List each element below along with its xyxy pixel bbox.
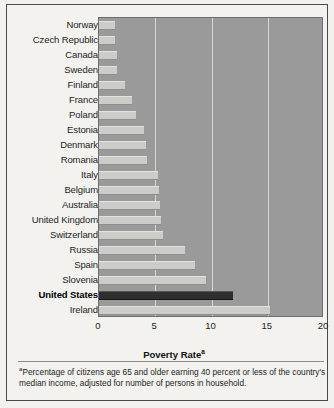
bar	[99, 81, 125, 90]
category-label: Australia	[18, 200, 98, 210]
bar	[99, 66, 117, 75]
bar	[99, 171, 158, 180]
category-label: Poland	[18, 110, 98, 120]
poverty-rate-figure: NorwayCzech RepublicCanadaSwedenFinlandF…	[0, 0, 334, 408]
bar	[99, 291, 233, 300]
category-label: United Kingdom	[18, 215, 98, 225]
category-label: Russia	[18, 245, 98, 255]
gridline-5	[155, 18, 156, 316]
bar	[99, 216, 161, 225]
x-tick-label: 5	[152, 320, 157, 331]
chart-area: NorwayCzech RepublicCanadaSwedenFinlandF…	[18, 17, 330, 329]
category-label: Czech Republic	[18, 35, 98, 45]
x-tick-label: 0	[95, 320, 100, 331]
plot-area	[98, 17, 323, 317]
x-tick-label: 15	[261, 320, 272, 331]
bar	[99, 126, 144, 135]
footnote-divider	[18, 361, 324, 362]
x-axis-title-text: Poverty Rate	[143, 349, 201, 360]
footnote-text: Percentage of citizens age 65 and older …	[19, 367, 325, 388]
gridline-10	[212, 18, 213, 316]
bar	[99, 51, 117, 60]
figure-frame: NorwayCzech RepublicCanadaSwedenFinlandF…	[6, 4, 328, 401]
category-label: Ireland	[18, 305, 98, 315]
category-label: Romania	[18, 155, 98, 165]
category-label: Canada	[18, 50, 98, 60]
bar	[99, 21, 115, 30]
x-tick-label: 10	[205, 320, 216, 331]
bar	[99, 231, 163, 240]
gridline-15	[268, 18, 269, 316]
category-label: Switzerland	[18, 230, 98, 240]
footnote: aPercentage of citizens age 65 and older…	[19, 367, 327, 389]
bar	[99, 96, 132, 105]
category-label: Italy	[18, 170, 98, 180]
bar	[99, 111, 136, 120]
bar	[99, 201, 160, 210]
x-axis-title-superscript: a	[201, 348, 205, 355]
bar	[99, 246, 185, 255]
x-axis-title: Poverty Ratea	[18, 349, 330, 360]
bar	[99, 36, 115, 45]
category-label: Estonia	[18, 125, 98, 135]
category-label: Finland	[18, 80, 98, 90]
bar	[99, 306, 270, 315]
category-label: Spain	[18, 260, 98, 270]
bar	[99, 276, 206, 285]
category-label: Belgium	[18, 185, 98, 195]
category-label: Slovenia	[18, 275, 98, 285]
bar	[99, 186, 159, 195]
x-tick-label: 20	[318, 320, 329, 331]
category-label: France	[18, 95, 98, 105]
bar	[99, 261, 195, 270]
category-label: Denmark	[18, 140, 98, 150]
category-label: Sweden	[18, 65, 98, 75]
category-label: Norway	[18, 20, 98, 30]
category-label: United States	[18, 290, 98, 300]
bar	[99, 141, 146, 150]
x-axis-ticks: 05101520	[98, 318, 323, 334]
bar	[99, 156, 147, 165]
category-axis-labels: NorwayCzech RepublicCanadaSwedenFinlandF…	[18, 17, 98, 317]
